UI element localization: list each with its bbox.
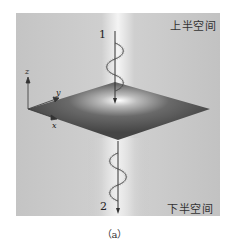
diagram-panel bbox=[16, 13, 220, 216]
lower-half-space-label: 下半空间 bbox=[167, 200, 213, 216]
x-axis-label: x bbox=[52, 121, 57, 130]
upper-half-space-label: 上半空间 bbox=[170, 17, 216, 33]
figure-caption: （a） bbox=[0, 226, 229, 241]
wave-2-label: 2 bbox=[100, 200, 107, 213]
figure: 上半空间 下半空间 1 2 z y x （a） bbox=[0, 0, 229, 246]
wave-1-label: 1 bbox=[99, 28, 106, 41]
z-axis-label: z bbox=[25, 67, 29, 76]
y-axis-label: y bbox=[56, 88, 61, 97]
